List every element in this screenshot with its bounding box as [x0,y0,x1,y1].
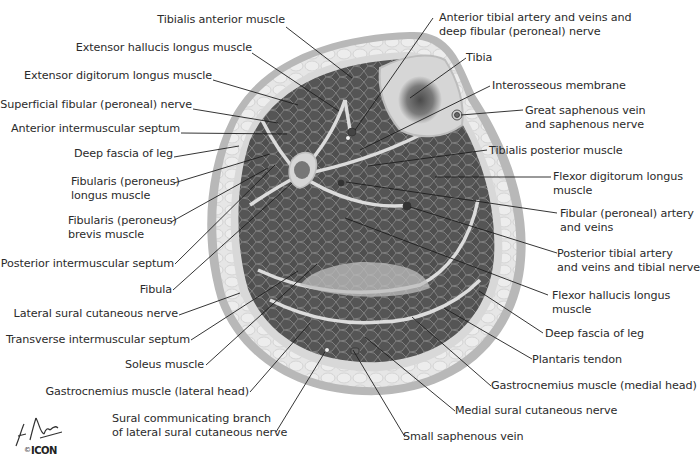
label-extensor-hallucis-longus-muscle: Extensor hallucis longus muscle [76,41,252,55]
label-lateral-sural-cutaneous-nerve: Lateral sural cutaneous nerve [14,307,178,321]
label-line-1: Sural communicating branch [112,412,287,426]
label-line-2: and veins [560,221,694,235]
label-line-1: Fibularis (peroneus) [68,214,177,228]
label-great-saphenous-vein: Great saphenous vein and saphenous nerve [525,104,646,132]
label-flexor-digitorum-longus: Flexor digitorum longus muscle [553,170,683,198]
label-line-1: Great saphenous vein [525,104,646,118]
label-deep-fascia-of-leg-right: Deep fascia of leg [545,327,644,341]
label-fibular-artery: Fibular (peroneal) artery and veins [560,207,694,235]
label-line-2: muscle [552,303,670,317]
label-line-2: of lateral sural cutaneous nerve [112,426,287,440]
netter-signature-logo: © ICON [10,414,70,464]
label-transverse-intermuscular-septum: Transverse intermuscular septum [6,333,190,347]
label-fibula: Fibula [140,283,172,297]
label-small-saphenous-vein: Small saphenous vein [403,430,524,444]
label-superficial-fibular-nerve: Superficial fibular (peroneal) nerve [0,98,192,112]
label-soleus-muscle: Soleus muscle [125,358,204,372]
label-gastrocnemius-lateral-head: Gastrocnemius muscle (lateral head) [45,385,249,399]
label-fibularis-longus-muscle: Fibularis (peroneus) longus muscle [71,175,180,203]
label-anterior-tibial-artery: Anterior tibial artery and veins and dee… [439,11,632,39]
label-line-2: longus muscle [71,189,180,203]
label-line-1: Anterior tibial artery and veins and [439,11,632,25]
label-line-1: Fibular (peroneal) artery [560,207,694,221]
tibia-marrow [398,76,442,124]
label-tibialis-anterior-muscle: Tibialis anterior muscle [157,13,285,27]
label-tibia: Tibia [466,51,492,65]
label-anterior-intermuscular-septum: Anterior intermuscular septum [11,122,180,136]
label-fibularis-brevis-muscle: Fibularis (peroneus) brevis muscle [68,214,177,242]
label-plantaris-tendon: Plantaris tendon [532,353,622,367]
label-interosseous-membrane: Interosseous membrane [492,79,626,93]
label-line-2: deep fibular (peroneal) nerve [439,25,632,39]
label-flexor-hallucis-longus: Flexor hallucis longus muscle [552,289,670,317]
label-line-2: and saphenous nerve [525,118,646,132]
label-extensor-digitorum-longus-muscle: Extensor digitorum longus muscle [24,69,212,83]
label-sural-communicating-branch: Sural communicating branch of lateral su… [112,412,287,440]
label-posterior-intermuscular-septum: Posterior intermuscular septum [1,257,174,271]
label-line-1: Flexor digitorum longus [553,170,683,184]
signature-icon [10,414,70,464]
label-deep-fascia-of-leg-left: Deep fascia of leg [74,147,173,161]
copyright-symbol: © [24,446,31,454]
label-tibialis-posterior-muscle: Tibialis posterior muscle [489,144,622,158]
label-line-1: Posterior tibial artery [557,247,700,261]
label-line-2: muscle [553,184,683,198]
label-line-1: Fibularis (peroneus) [71,175,180,189]
label-posterior-tibial-artery: Posterior tibial artery and veins and ti… [557,247,700,275]
icon-publisher-logo: ICON [31,445,57,456]
label-medial-sural-cutaneous-nerve: Medial sural cutaneous nerve [455,404,617,418]
label-gastrocnemius-medial-head: Gastrocnemius muscle (medial head) [491,379,697,393]
label-line-1: Flexor hallucis longus [552,289,670,303]
label-line-2: and veins and tibial nerve [557,261,700,275]
label-line-2: brevis muscle [68,228,177,242]
